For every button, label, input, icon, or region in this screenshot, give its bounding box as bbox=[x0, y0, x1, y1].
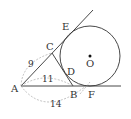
label-b: B bbox=[70, 89, 77, 100]
label-e: E bbox=[62, 21, 69, 32]
label-a: A bbox=[10, 83, 19, 94]
line-ace bbox=[21, 10, 93, 86]
label-c: C bbox=[46, 41, 54, 52]
label-o: O bbox=[86, 58, 94, 69]
label-f: F bbox=[88, 89, 95, 100]
measure-ab: 11 bbox=[42, 74, 53, 84]
measure-af: 14 bbox=[50, 99, 62, 109]
measure-ac: 9 bbox=[28, 59, 34, 69]
geometry-diagram: A B C D E F O 9 11 14 bbox=[0, 0, 131, 119]
label-d: D bbox=[67, 66, 75, 77]
